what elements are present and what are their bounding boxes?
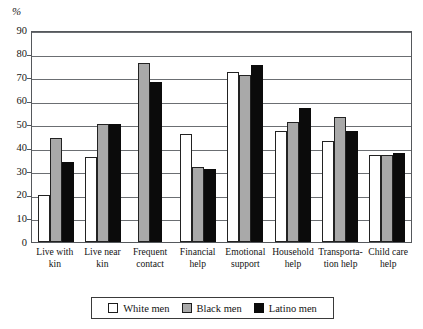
y-axis-tick-label: 30 <box>1 167 27 177</box>
bar-white-men <box>275 131 287 242</box>
grouped-bar-chart: % 9080706050403020100 Live with kinLive … <box>0 0 423 329</box>
y-axis-tick-label: 70 <box>1 73 27 83</box>
bar-white-men <box>227 72 239 242</box>
x-axis-category-label: Live with kin <box>31 246 79 286</box>
bar-group <box>269 32 316 242</box>
x-axis-category-label: Child care help <box>364 246 412 286</box>
y-axis-tick-mark <box>27 172 31 173</box>
bar-group <box>32 32 79 242</box>
y-axis-unit-label: % <box>12 5 21 17</box>
bar-latino-men <box>299 108 311 242</box>
bar-black-men <box>97 124 109 242</box>
y-axis-tick-mark <box>27 219 31 220</box>
bar-white-men <box>369 155 381 242</box>
bar-groups <box>32 32 411 242</box>
bar-black-men <box>138 63 150 242</box>
chart-legend: White menBlack menLatino men <box>91 297 334 319</box>
legend-item: Black men <box>182 303 242 314</box>
y-axis-tick-label: 40 <box>1 143 27 153</box>
x-axis-category-label: Household help <box>269 246 317 286</box>
white-swatch-icon <box>108 303 118 313</box>
legend-item: Latino men <box>254 303 317 314</box>
bar-group <box>174 32 221 242</box>
legend-label: Latino men <box>269 303 317 314</box>
y-axis-tick-mark <box>27 149 31 150</box>
y-axis-tick-mark <box>27 196 31 197</box>
bar-group <box>316 32 363 242</box>
bar-group <box>364 32 411 242</box>
bar-black-men <box>381 155 393 242</box>
y-axis-tick-mark <box>27 55 31 56</box>
black-swatch-icon <box>254 303 264 313</box>
y-axis-tick-label: 50 <box>1 120 27 130</box>
bar-group <box>127 32 174 242</box>
x-axis-category-label: Emotional support <box>222 246 270 286</box>
y-axis-tick-mark <box>27 102 31 103</box>
bar-black-men <box>287 122 299 242</box>
bar-black-men <box>192 167 204 242</box>
y-axis-tick-label: 10 <box>1 214 27 224</box>
y-axis-tick-label: 60 <box>1 96 27 106</box>
y-axis-tick-mark <box>27 78 31 79</box>
bar-group <box>222 32 269 242</box>
bar-latino-men <box>393 153 405 243</box>
bar-white-men <box>180 134 192 242</box>
bar-black-men <box>239 75 251 242</box>
y-axis-tick-label: 90 <box>1 26 27 36</box>
bar-latino-men <box>204 169 216 242</box>
bar-latino-men <box>346 131 358 242</box>
y-axis-tick-label: 20 <box>1 190 27 200</box>
x-axis-labels: Live with kinLive near kinFrequent conta… <box>31 246 412 286</box>
gray-swatch-icon <box>182 303 192 313</box>
bar-latino-men <box>109 124 121 242</box>
x-axis-category-label: Financial help <box>174 246 222 286</box>
bar-white-men <box>322 141 334 242</box>
legend-item: White men <box>108 303 169 314</box>
bar-black-men <box>50 138 62 242</box>
bar-latino-men <box>62 162 74 242</box>
bar-group <box>79 32 126 242</box>
bar-black-men <box>334 117 346 242</box>
legend-label: Black men <box>197 303 242 314</box>
y-axis-tick-label: 0 <box>1 238 27 248</box>
plot-area <box>31 31 412 243</box>
bar-latino-men <box>251 65 263 242</box>
bar-latino-men <box>150 82 162 242</box>
bar-white-men <box>38 195 50 242</box>
y-axis-tick-mark <box>27 125 31 126</box>
bar-white-men <box>85 157 97 242</box>
y-axis-tick-label: 80 <box>1 49 27 59</box>
x-axis-category-label: Live near kin <box>79 246 127 286</box>
x-axis-category-label: Frequent contact <box>126 246 174 286</box>
legend-label: White men <box>123 303 169 314</box>
x-axis-category-label: Transporta- tion help <box>317 246 365 286</box>
